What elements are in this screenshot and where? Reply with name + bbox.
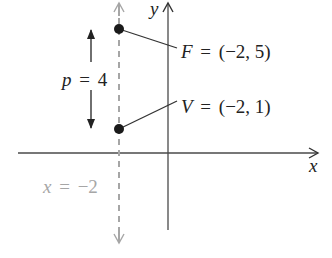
diagram-canvas: y x F = (−2, 5) V = (−2, 1) p = 4 x = −2 xyxy=(0,0,332,258)
dashed-line-label: x = −2 xyxy=(42,176,98,197)
focus-point xyxy=(114,24,124,34)
p-distance-label: p = 4 xyxy=(60,69,108,90)
x-axis-label: x xyxy=(308,155,318,176)
y-axis-label: y xyxy=(148,0,159,19)
vertex-point xyxy=(114,124,124,134)
vertex-label: V = (−2, 1) xyxy=(181,96,271,118)
focus-label: F = (−2, 5) xyxy=(180,41,271,63)
